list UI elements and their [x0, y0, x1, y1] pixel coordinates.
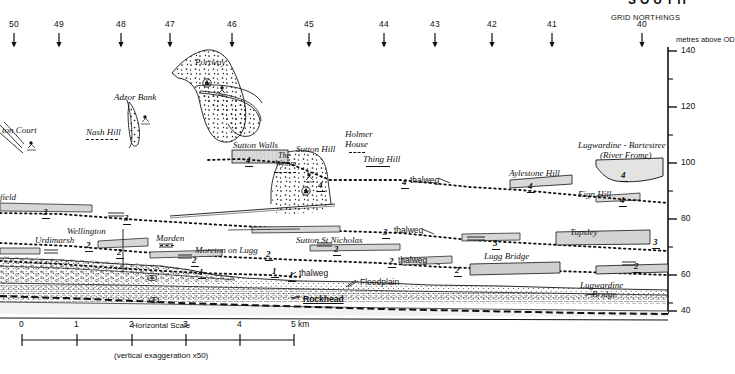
terrace-number-underline [401, 188, 409, 189]
annotation-floodplain: Floodplain [360, 278, 399, 287]
terrace-number: 3 [43, 208, 48, 217]
place-underline-marden [160, 245, 174, 246]
northing-label-40: 40 [637, 20, 647, 29]
scale-tick-label: 5 km [291, 320, 309, 329]
terrace-number-underline [271, 277, 279, 278]
northing-arrow [11, 33, 16, 48]
terrace-number: 2 [389, 257, 394, 266]
terrace-number-underline [527, 192, 535, 193]
terrace-number-underline [245, 166, 253, 167]
terrace-number: 2 [192, 256, 197, 265]
annotation-thalweg-3: thalweg [394, 226, 423, 235]
terrace-number: 3 [493, 239, 498, 248]
terrace-number-underline [265, 260, 273, 261]
terrace-number: 3 [653, 238, 658, 247]
axis-tick-40: 40 [681, 306, 690, 315]
axis-tick-60: 60 [681, 270, 690, 279]
annotation-thalweg-2: thalweg [398, 256, 427, 265]
terrace-number: 4 [402, 178, 407, 187]
axis-tick-100: 100 [681, 158, 695, 167]
terrace-number-underline [288, 281, 296, 282]
axis-caption: metres above OD [676, 36, 735, 44]
terrace-number: 2 [266, 250, 271, 259]
terrace-number: 2 [634, 262, 639, 271]
northing-arrow [639, 33, 644, 48]
scale-title: Horizontal Scale [132, 322, 190, 330]
figure-header: SOUTH [628, 0, 690, 6]
northing-arrows [11, 33, 644, 48]
annotation-rockhead: Rockhead [303, 295, 344, 304]
place-label-the-wymm2: Wymm [275, 160, 296, 168]
place-label-aylestone-hill: Aylestone Hill [509, 169, 560, 178]
terrace-number: 4 [528, 182, 533, 191]
northing-arrow [167, 33, 172, 48]
place-label-urdimarsh: Urdimarsh [35, 236, 74, 245]
terrace-number-underline [116, 258, 124, 259]
place-underline-the-wymm2 [274, 172, 296, 173]
place-label-xfield: field [0, 193, 16, 202]
terrace-number-underline [454, 276, 462, 277]
northing-label-48: 48 [116, 20, 126, 29]
northing-arrow [306, 33, 311, 48]
place-underline-thing-hill [366, 166, 390, 167]
place-label-sutton-walls: Sutton Walls [233, 141, 278, 150]
northing-label-45: 45 [304, 20, 314, 29]
terrace-number-underline [382, 238, 390, 239]
northing-label-41: 41 [547, 20, 557, 29]
place-label-lugg-bridge: Lugg Bridge [484, 252, 529, 261]
northing-arrow [56, 33, 61, 48]
northing-label-50: 50 [9, 20, 19, 29]
scale-tick-label: 0 [19, 320, 24, 329]
adzor-bank-outcrop [127, 100, 150, 148]
terrace-number-underline [85, 251, 93, 252]
place-label-tupsley: Tupsley [570, 228, 598, 237]
terrace-number: 4 [246, 156, 251, 165]
northing-label-44: 44 [379, 20, 389, 29]
northing-arrow [489, 33, 494, 48]
place-label-wellington: Wellington [67, 227, 106, 236]
axis-tick-120: 120 [681, 102, 695, 111]
terrace-number: 4 [318, 181, 323, 190]
place-underline-holmer-house2 [349, 152, 365, 153]
northing-arrow [229, 33, 234, 48]
terrace-number-underline [633, 272, 641, 273]
northing-arrow [549, 33, 554, 48]
terrace-number-underline [333, 255, 341, 256]
place-label-adzor-bank: Adzor Bank [114, 93, 156, 102]
place-label-river-frome: (River Frome) [600, 151, 651, 160]
terrace-number-underline [198, 278, 206, 279]
terrace-number: 3 [383, 228, 388, 237]
northing-label-49: 49 [54, 20, 64, 29]
terrace-number-underline [619, 206, 627, 207]
terrace-number: 3 [124, 214, 129, 223]
terrace-number: 1 [272, 267, 277, 276]
place-label-moreton-on-lugg: Moreton on Lugg [195, 246, 258, 255]
terrace-number: 2 [334, 245, 339, 254]
terrace-number: 2 [86, 241, 91, 250]
terrace-number-underline [191, 266, 199, 267]
terrace-number-underline [123, 224, 131, 225]
elevation-axis [668, 47, 677, 314]
terrace-number-underline [652, 248, 660, 249]
annotation-thalweg-4: thalweg [410, 176, 439, 185]
terrace-number-underline [42, 218, 50, 219]
vertical-exaggeration: (vertical exaggeration x50) [114, 352, 208, 360]
northing-arrow [118, 33, 123, 48]
place-label-holmer-house2: House [345, 140, 368, 149]
place-label-marden: Marden [156, 234, 184, 243]
place-label-lugwardine-br2: Bridge [592, 290, 617, 299]
terrace-number: 2 [455, 266, 460, 275]
terrace-number: 2 [117, 248, 122, 257]
place-label-holmer-house1: Holmer [345, 130, 373, 139]
northing-arrow [381, 33, 386, 48]
scale-bar [22, 334, 294, 346]
terrace-number-underline [492, 249, 500, 250]
place-label-lugwardine-bartestree: Lugwardine - Bartestree [578, 141, 666, 150]
terrace-number: 4 [621, 171, 626, 180]
place-label-thing-hill: Thing Hill [363, 155, 400, 164]
terrace-number-underline [317, 191, 325, 192]
scale-tick-label: 1 [74, 320, 79, 329]
place-label-sutton-hill: Sutton Hill [296, 145, 335, 154]
